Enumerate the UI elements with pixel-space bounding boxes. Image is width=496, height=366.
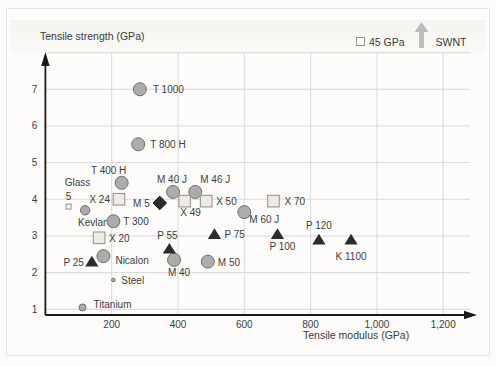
point-label-m-40: M 40 bbox=[168, 267, 191, 278]
up-arrow-glyph bbox=[414, 22, 429, 48]
point-m-5 bbox=[153, 196, 167, 210]
point-titanium bbox=[79, 304, 86, 311]
point-t-300 bbox=[107, 215, 120, 228]
y-tick-7: 7 bbox=[32, 84, 38, 95]
x-tick-200: 200 bbox=[103, 319, 120, 330]
point-label-titanium: Titanium bbox=[94, 299, 132, 310]
point-x-50 bbox=[200, 195, 212, 207]
point-label-x-24: X 24 bbox=[89, 194, 110, 205]
point-label-glass-5: Glass5 bbox=[65, 177, 91, 202]
x-axis-title: Tensile modulus (GPa) bbox=[303, 329, 409, 341]
point-steel bbox=[112, 278, 116, 282]
point-label-p-75: P 75 bbox=[224, 229, 245, 240]
point-label-steel: Steel bbox=[121, 275, 144, 286]
point-label-p-120: P 120 bbox=[306, 220, 332, 231]
point-nicalon bbox=[97, 250, 110, 263]
fiber-strength-modulus-figure: 2004006008001,0001,2001234567T 1000T 800… bbox=[0, 0, 496, 366]
x-axis-arrowhead bbox=[464, 311, 477, 319]
point-label-k-1100: K 1100 bbox=[336, 251, 367, 262]
x-tick-400: 400 bbox=[170, 319, 187, 330]
point-label-kevlar: Kevlar bbox=[78, 217, 107, 228]
swnt-annotation: 45 GPa SWNT bbox=[356, 22, 467, 48]
point-p-100 bbox=[271, 228, 284, 239]
point-label-x-50: X 50 bbox=[216, 196, 237, 207]
point-t-400-h bbox=[115, 176, 128, 189]
point-t-1000 bbox=[133, 83, 146, 96]
swnt-up-arrow-icon bbox=[414, 22, 429, 48]
point-label-m-5: M 5 bbox=[133, 198, 150, 209]
y-tick-2: 2 bbox=[32, 267, 38, 278]
y-tick-5: 5 bbox=[32, 157, 38, 168]
point-label-x-70: X 70 bbox=[284, 196, 305, 207]
swnt-value-label: 45 GPa bbox=[369, 36, 405, 48]
point-label-m-46-j: M 46 J bbox=[200, 174, 230, 185]
point-label-t-800-h: T 800 H bbox=[150, 139, 185, 150]
point-x-70 bbox=[268, 195, 280, 207]
point-label-m-50: M 50 bbox=[218, 257, 241, 268]
x-tick-600: 600 bbox=[236, 319, 253, 330]
point-p-75 bbox=[208, 228, 221, 239]
y-tick-4: 4 bbox=[32, 194, 38, 205]
point-m-40-j bbox=[167, 185, 180, 198]
point-p-25 bbox=[85, 256, 98, 267]
point-m-50 bbox=[201, 255, 214, 268]
point-glass-5 bbox=[66, 204, 71, 209]
point-label-p-100: P 100 bbox=[269, 241, 295, 252]
point-label-nicalon: Nicalon bbox=[115, 255, 148, 266]
point-m-40 bbox=[168, 253, 181, 266]
point-label-p-25: P 25 bbox=[63, 257, 84, 268]
swnt-label: SWNT bbox=[436, 36, 467, 48]
y-tick-1: 1 bbox=[32, 304, 38, 315]
point-label-t-300: T 300 bbox=[123, 216, 149, 227]
y-axis-arrowhead bbox=[41, 52, 49, 66]
point-label-t-400-h: T 400 H bbox=[91, 165, 126, 176]
scatter-chart: 2004006008001,0001,2001234567T 1000T 800… bbox=[0, 0, 496, 366]
point-label-p-55: P 55 bbox=[157, 230, 178, 241]
point-p-55 bbox=[163, 243, 176, 254]
point-label-m-40-j: M 40 J bbox=[157, 174, 187, 185]
point-label-x-49: X 49 bbox=[180, 207, 201, 218]
y-tick-3: 3 bbox=[32, 230, 38, 241]
point-kevlar bbox=[80, 206, 89, 215]
point-x-24 bbox=[113, 193, 125, 205]
point-label-x-20: X 20 bbox=[109, 233, 130, 244]
y-tick-6: 6 bbox=[32, 120, 38, 131]
open-square-icon bbox=[356, 37, 365, 46]
point-k-1100 bbox=[344, 234, 357, 245]
point-t-800-h bbox=[132, 138, 145, 151]
point-label-m-60-j: M 60 J bbox=[249, 214, 279, 225]
point-x-49 bbox=[179, 195, 191, 207]
point-x-20 bbox=[93, 232, 105, 244]
y-axis-title: Tensile strength (GPa) bbox=[40, 30, 144, 42]
x-tick-1200: 1,200 bbox=[431, 319, 456, 330]
point-label-t-1000: T 1000 bbox=[153, 84, 184, 95]
point-p-120 bbox=[312, 234, 325, 245]
